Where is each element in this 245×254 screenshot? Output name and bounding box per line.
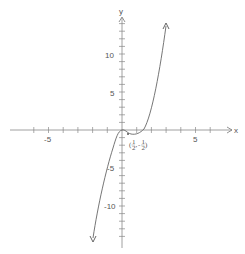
local-min-annotation: ( 1 2 , - 1 2 ) [129, 138, 148, 152]
x-axis: x -5 5 [10, 126, 238, 144]
y-tick-label-neg10: -10 [104, 202, 116, 211]
y-tick-label-10: 10 [105, 51, 114, 60]
svg-text:): ) [145, 141, 148, 149]
x-tick-label-5: 5 [193, 135, 198, 144]
local-min-point [127, 133, 129, 135]
x-tick-label-neg5: -5 [44, 135, 52, 144]
y-axis-label: y [119, 7, 123, 16]
y-tick-label-5: 5 [110, 89, 115, 98]
x-axis-label: x [234, 126, 238, 135]
cubic-plot: x -5 5 y 10 5 -5 -10 ( 1 2 , - 1 2 ) [0, 0, 245, 254]
